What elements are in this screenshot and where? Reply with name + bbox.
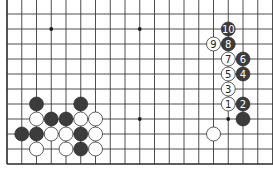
white-stone-icon: [74, 112, 88, 126]
white-stone-icon: [89, 142, 103, 156]
black-stone: [15, 127, 29, 141]
white-stone: [30, 142, 44, 156]
move-number: 8: [225, 39, 231, 50]
black-stone-icon: [74, 127, 88, 141]
move-number: 10: [222, 24, 235, 35]
numbered-stone-8: 8: [221, 37, 235, 51]
black-stone: [74, 97, 88, 111]
move-number: 2: [240, 99, 246, 110]
star-point: [138, 117, 142, 121]
numbered-stone-3: 3: [221, 82, 235, 96]
white-stone-icon: [30, 142, 44, 156]
white-stone: [30, 112, 44, 126]
move-number: 7: [225, 54, 231, 65]
black-stone-icon: [30, 97, 44, 111]
numbered-stone-5: 5: [221, 67, 235, 81]
white-stone: [89, 142, 103, 156]
white-stone: [59, 142, 73, 156]
move-number: 1: [225, 99, 231, 110]
move-number: 3: [225, 84, 231, 95]
numbered-stone-1: 1: [221, 97, 235, 111]
black-stone: [44, 112, 58, 126]
white-stone-icon: [59, 142, 73, 156]
numbered-stone-4: 4: [236, 67, 250, 81]
black-stone-icon: [44, 112, 58, 126]
black-stone-icon: [59, 112, 73, 126]
black-stone: [59, 112, 73, 126]
white-stone: [89, 127, 103, 141]
star-point: [49, 27, 53, 31]
white-stone: [59, 127, 73, 141]
black-stone-icon: [236, 112, 250, 126]
white-stone-icon: [44, 127, 58, 141]
black-stone: [30, 97, 44, 111]
black-stone-icon: [74, 97, 88, 111]
black-stone: [236, 112, 250, 126]
move-number: 6: [240, 54, 246, 65]
move-number: 5: [225, 69, 231, 80]
numbered-stone-7: 7: [221, 52, 235, 66]
black-stone: [74, 142, 88, 156]
numbered-stone-10: 10: [221, 22, 235, 36]
white-stone: [89, 112, 103, 126]
move-number: 9: [210, 39, 216, 50]
white-stone-icon: [30, 112, 44, 126]
black-stone: [74, 127, 88, 141]
white-stone: [44, 127, 58, 141]
go-board: 12345678910: [0, 0, 273, 174]
white-stone-icon: [59, 127, 73, 141]
white-stone: [207, 127, 221, 141]
numbered-stone-2: 2: [236, 97, 250, 111]
white-stone: [74, 112, 88, 126]
black-stone: [30, 127, 44, 141]
numbered-stone-9: 9: [207, 37, 221, 51]
black-stone-icon: [74, 142, 88, 156]
star-point: [226, 117, 230, 121]
white-stone-icon: [89, 127, 103, 141]
star-point: [138, 27, 142, 31]
black-stone-icon: [15, 127, 29, 141]
move-number: 4: [240, 69, 246, 80]
white-stone-icon: [207, 127, 221, 141]
numbered-stone-6: 6: [236, 52, 250, 66]
white-stone-icon: [89, 112, 103, 126]
black-stone-icon: [30, 127, 44, 141]
